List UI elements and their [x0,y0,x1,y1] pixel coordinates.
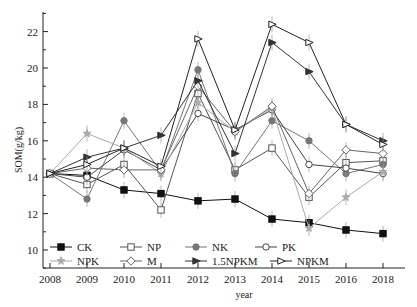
legend-item-1-5npkm: 1.5NPKM [185,255,258,267]
legend-item-npkm: NPKM [270,255,329,267]
svg-text:M: M [147,255,157,267]
y-tick-label: 10 [27,244,39,256]
legend-item-nk: NK [185,241,228,253]
x-tick-label: 2018 [372,273,395,285]
svg-text:1.5NPKM: 1.5NPKM [212,255,258,267]
y-tick-label: 12 [27,208,38,220]
x-tick-label: 2010 [113,273,136,285]
series-npk [46,95,387,237]
legend-item-m: M [120,255,157,267]
legend-item-npk: NPK [50,255,99,267]
y-tick-label: 14 [27,171,39,183]
svg-text:NPKM: NPKM [297,255,329,267]
y-tick-label: 20 [27,62,39,74]
x-tick-label: 2009 [76,273,99,285]
x-tick-label: 2015 [298,273,321,285]
svg-text:PK: PK [282,241,296,253]
x-axis-label: year [235,289,253,300]
legend: CKNPNKPKNPKM1.5NPKMNPKM [50,241,329,267]
legend-item-ck: CK [50,241,92,253]
y-tick-label: 22 [27,26,38,38]
y-tick-label: 18 [27,98,39,110]
line-chart: 1012141618202220082009201020112012201320… [0,0,417,307]
svg-text:NP: NP [147,241,161,253]
legend-item-pk: PK [255,241,296,253]
svg-text:CK: CK [77,241,92,253]
x-tick-label: 2012 [187,273,209,285]
y-axis-label: SOM(g/kg) [13,127,25,173]
series-npkm [47,16,387,176]
x-tick-label: 2008 [39,273,62,285]
series-m [46,78,387,201]
svg-text:NPK: NPK [77,255,99,267]
series-1-5npkm [47,35,387,177]
y-tick-label: 16 [27,135,39,147]
x-tick-label: 2014 [261,273,284,285]
plot-area [46,16,387,241]
svg-text:NK: NK [212,241,228,253]
x-tick-label: 2011 [150,273,172,285]
x-tick-label: 2016 [335,273,358,285]
series-np [47,85,386,217]
legend-item-np: NP [120,241,161,253]
x-tick-label: 2013 [224,273,247,285]
